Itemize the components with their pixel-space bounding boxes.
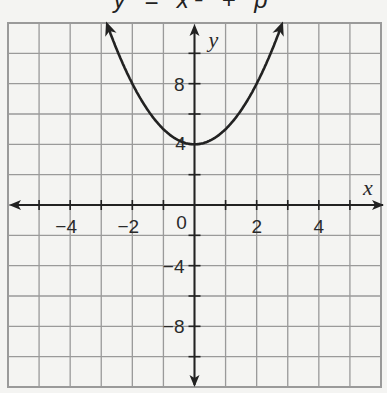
svg-text:8: 8	[174, 74, 185, 95]
parabola-graph: −4−224084−4−8xy	[0, 0, 387, 393]
svg-text:2: 2	[251, 216, 262, 237]
svg-text:−2: −2	[117, 216, 139, 237]
svg-text:−4: −4	[163, 256, 185, 277]
axes	[9, 24, 384, 387]
svg-text:−4: −4	[55, 216, 77, 237]
svg-text:4: 4	[314, 216, 325, 237]
svg-text:0: 0	[176, 212, 187, 233]
svg-text:−8: −8	[163, 316, 185, 337]
tick-labels: −4−224084−4−8xy	[55, 27, 373, 337]
svg-text:y: y	[207, 27, 219, 52]
svg-text:x: x	[362, 175, 373, 200]
